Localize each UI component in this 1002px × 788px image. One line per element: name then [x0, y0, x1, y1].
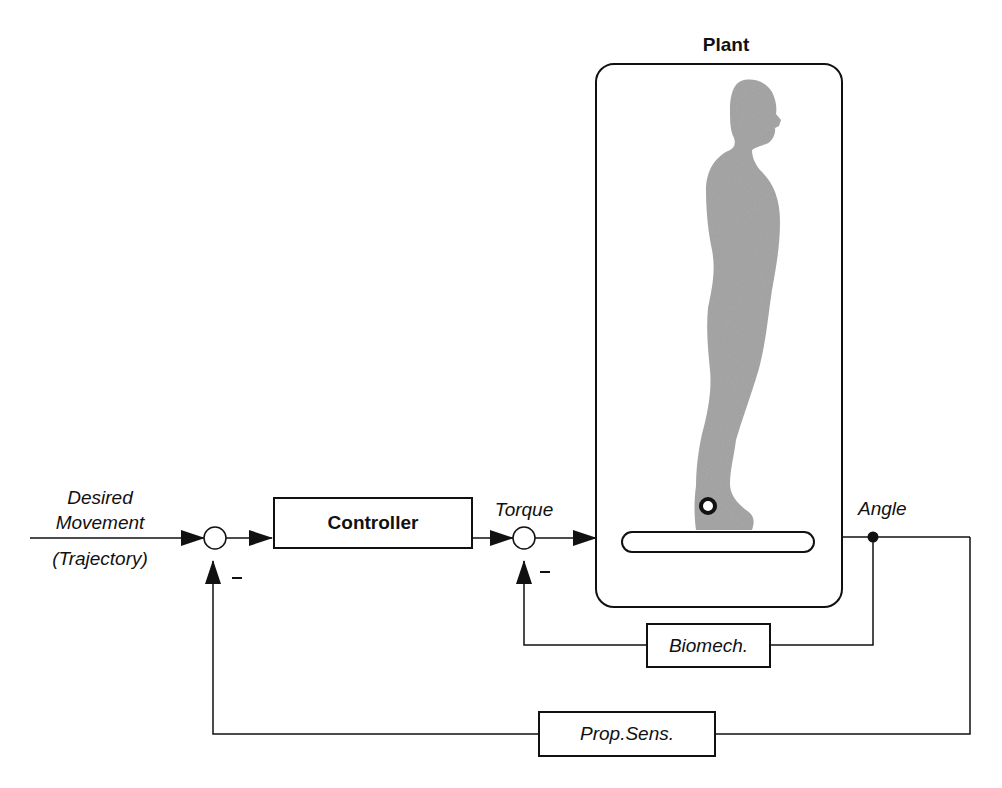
controller-block: Controller	[274, 498, 472, 548]
ankle-joint-icon	[701, 499, 715, 513]
torque-label: Torque	[484, 499, 564, 521]
input-label-line3: (Trajectory)	[30, 548, 170, 570]
biomech-label: Biomech.	[669, 635, 748, 657]
controller-label: Controller	[328, 512, 419, 534]
input-label-line1: Desired	[40, 487, 160, 509]
human-silhouette	[695, 80, 782, 531]
angle-label: Angle	[858, 498, 907, 520]
input-label-line2: Movement	[30, 512, 170, 534]
control-loop-diagram	[0, 0, 1002, 788]
plant-block	[596, 64, 842, 607]
inner-summing-junction	[513, 527, 535, 549]
plant-title: Plant	[686, 34, 766, 56]
foot-platform	[622, 532, 814, 552]
prop-sens-label: Prop.Sens.	[580, 723, 674, 745]
biomech-block: Biomech.	[647, 624, 770, 667]
prop-sens-block: Prop.Sens.	[539, 712, 715, 756]
outer-summing-junction	[204, 527, 226, 549]
